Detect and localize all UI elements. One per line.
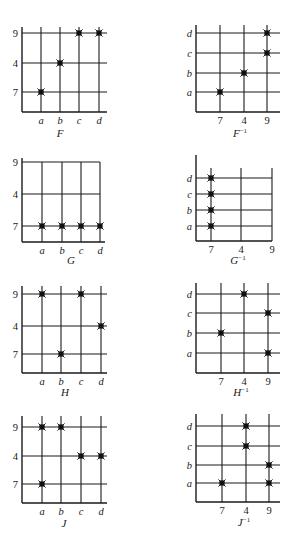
y-tick-label: 4 xyxy=(13,58,19,69)
relation-point-marker xyxy=(57,350,64,357)
y-tick-label: 4 xyxy=(13,189,19,200)
relation-point-marker xyxy=(38,222,45,229)
y-tick-label: c xyxy=(187,441,192,452)
x-tick-label: a xyxy=(39,245,44,256)
y-tick-label: 4 xyxy=(13,321,19,332)
relation-point-marker xyxy=(56,59,63,66)
panel-title: F xyxy=(56,127,64,139)
y-tick-label: b xyxy=(187,460,192,471)
y-tick-label: b xyxy=(187,205,192,216)
relation-point-marker xyxy=(265,479,272,486)
relation-grids-canvas: abcd947F749dcbaF−1abcd947G749dcbaG−1abcd… xyxy=(0,0,297,553)
panel-J: abcd947J xyxy=(13,416,107,529)
panel-title: G xyxy=(67,254,75,266)
y-tick-label: b xyxy=(187,68,192,79)
relation-point-marker xyxy=(96,222,103,229)
y-tick-label: 9 xyxy=(13,289,18,300)
x-tick-label: c xyxy=(79,245,84,256)
x-tick-label: 7 xyxy=(217,115,222,126)
panel-F: abcd947F xyxy=(13,27,107,139)
relation-point-marker xyxy=(38,290,45,297)
x-tick-label: a xyxy=(38,115,43,126)
relation-point-marker xyxy=(264,349,271,356)
x-tick-label: b xyxy=(57,115,62,126)
relation-point-marker xyxy=(38,423,45,430)
panel-title: F−1 xyxy=(232,127,248,139)
y-tick-label: d xyxy=(187,289,193,300)
x-tick-label: 9 xyxy=(266,505,271,516)
y-tick-label: d xyxy=(187,421,193,432)
x-tick-label: c xyxy=(77,115,82,126)
relation-point-marker xyxy=(240,69,247,76)
panel-H: abcd947H xyxy=(13,286,107,398)
relation-point-marker xyxy=(77,452,84,459)
x-tick-label: 9 xyxy=(269,244,274,255)
x-tick-label: 7 xyxy=(219,505,224,516)
x-tick-label: d xyxy=(98,506,104,517)
x-tick-label: 4 xyxy=(243,505,249,516)
relation-point-marker xyxy=(207,206,214,213)
y-tick-label: d xyxy=(187,173,193,184)
relation-point-marker xyxy=(265,461,272,468)
relation-point-marker xyxy=(77,290,84,297)
relation-point-marker xyxy=(97,452,104,459)
panel-title: G−1 xyxy=(230,254,246,266)
panel-title: J xyxy=(62,517,68,529)
relation-point-marker xyxy=(207,190,214,197)
relation-point-marker xyxy=(218,479,225,486)
x-tick-label: b xyxy=(58,506,63,517)
relation-point-marker xyxy=(264,309,271,316)
relation-point-marker xyxy=(242,422,249,429)
relation-point-marker xyxy=(58,222,65,229)
panel-J-inv: 749dcbaJ−1 xyxy=(187,414,280,528)
relation-point-marker xyxy=(263,29,270,36)
x-tick-label: c xyxy=(79,376,84,387)
relation-point-marker xyxy=(217,329,224,336)
x-tick-label: 9 xyxy=(264,115,269,126)
y-tick-label: a xyxy=(187,87,192,98)
y-tick-label: 9 xyxy=(13,28,18,39)
y-tick-label: c xyxy=(187,48,192,59)
x-tick-label: d xyxy=(97,245,103,256)
x-tick-label: 9 xyxy=(265,376,270,387)
relation-point-marker xyxy=(207,222,214,229)
relation-point-marker xyxy=(57,423,64,430)
relation-point-marker xyxy=(263,49,270,56)
y-tick-label: a xyxy=(187,348,192,359)
y-tick-label: c xyxy=(187,308,192,319)
panel-H-inv: 749dcbaH−1 xyxy=(187,283,280,398)
relation-point-marker xyxy=(77,222,84,229)
panel-title: H xyxy=(60,386,70,398)
panel-F-inv: 749dcbaF−1 xyxy=(187,25,280,139)
y-tick-label: 7 xyxy=(13,221,18,232)
panel-G-inv: 749dcbaG−1 xyxy=(187,155,275,266)
y-tick-label: 7 xyxy=(13,349,18,360)
x-tick-label: d xyxy=(98,376,104,387)
x-tick-label: d xyxy=(96,115,102,126)
x-tick-label: c xyxy=(79,506,84,517)
y-tick-label: a xyxy=(187,221,192,232)
panel-title: H−1 xyxy=(232,386,249,398)
panel-G: abcd947G xyxy=(13,157,105,267)
x-tick-label: 7 xyxy=(218,376,223,387)
relation-point-marker xyxy=(95,29,102,36)
y-tick-label: b xyxy=(187,328,192,339)
y-tick-label: 4 xyxy=(13,451,19,462)
x-tick-label: b xyxy=(59,245,64,256)
relation-point-marker xyxy=(216,88,223,95)
x-tick-label: 4 xyxy=(241,115,247,126)
relation-point-marker xyxy=(207,174,214,181)
y-tick-label: d xyxy=(187,28,193,39)
x-tick-label: 7 xyxy=(208,244,213,255)
y-tick-label: 7 xyxy=(13,87,18,98)
y-tick-label: 7 xyxy=(13,479,18,490)
y-tick-label: c xyxy=(187,189,192,200)
relation-point-marker xyxy=(242,442,249,449)
relation-point-marker xyxy=(37,88,44,95)
x-tick-label: a xyxy=(39,506,44,517)
relation-point-marker xyxy=(75,29,82,36)
relation-point-marker xyxy=(38,480,45,487)
y-tick-label: 9 xyxy=(13,422,18,433)
x-tick-label: a xyxy=(39,376,44,387)
y-tick-label: 9 xyxy=(13,157,18,168)
